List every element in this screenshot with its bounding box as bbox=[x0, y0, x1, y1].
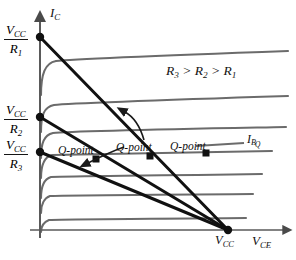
resistor-relation-label: R3 > R2 > R1 bbox=[166, 64, 236, 78]
tick-label-vcc: VCC bbox=[215, 234, 234, 247]
figure-canvas: IC VCE VCC R1 VCC R2 VCC R3 VCC R3 > R2 … bbox=[0, 0, 296, 260]
q-point-label-2: Q-point bbox=[116, 142, 152, 154]
tick-label-vcc-r1-denominator: R1 bbox=[4, 40, 28, 57]
y-axis-label: IC bbox=[50, 6, 60, 19]
q-point-marker-2 bbox=[147, 153, 154, 160]
tick-label-vcc-r3-numerator: VCC bbox=[4, 137, 28, 155]
tick-label-vcc-r1-numerator: VCC bbox=[4, 22, 28, 40]
intercept-dot-r2 bbox=[36, 113, 44, 121]
pointer-arrows bbox=[88, 112, 144, 163]
tick-label-vcc-r1: VCC R1 bbox=[4, 22, 28, 57]
x-axis-label: VCE bbox=[252, 234, 271, 247]
tick-label-vcc-r2-denominator: R2 bbox=[4, 120, 28, 137]
tick-label-vcc-r2-numerator: VCC bbox=[4, 102, 28, 120]
q-point-label-3: Q-point bbox=[170, 141, 206, 153]
tick-label-vcc-sub: CC bbox=[223, 239, 234, 249]
intercept-dot-r1 bbox=[36, 33, 44, 41]
ibq-label: IBQ bbox=[247, 133, 261, 145]
intercept-dot-r3 bbox=[36, 148, 44, 156]
tick-label-vcc-main: V bbox=[215, 233, 223, 247]
tick-label-vcc-r3: VCC R3 bbox=[4, 137, 28, 172]
tick-label-vcc-r3-denominator: R3 bbox=[4, 155, 28, 172]
characteristic-curves-plot bbox=[0, 0, 296, 260]
tick-label-vcc-r2: VCC R2 bbox=[4, 102, 28, 137]
x-axis-label-main: V bbox=[252, 233, 260, 248]
ibq-label-sub2: Q bbox=[255, 140, 260, 149]
y-axis-label-sub: C bbox=[54, 12, 60, 22]
ib-curve-1 bbox=[41, 51, 288, 95]
vcc-convergence-dot bbox=[224, 226, 232, 234]
x-axis-label-sub: CE bbox=[260, 240, 271, 250]
q-point-label-1: Q-point bbox=[58, 145, 94, 157]
ib-curve-2 bbox=[41, 96, 288, 132]
